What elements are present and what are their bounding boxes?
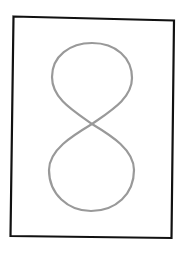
drawing-canvas bbox=[0, 0, 185, 257]
frame-border bbox=[11, 17, 175, 239]
